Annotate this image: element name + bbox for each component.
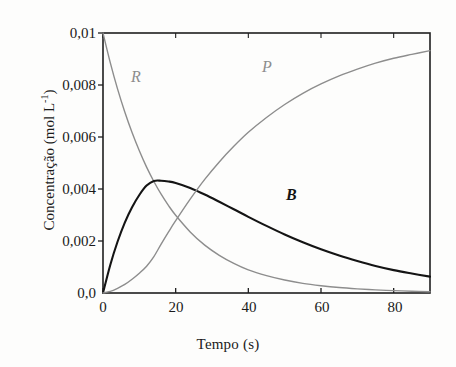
axes-frame	[103, 33, 430, 293]
chart-figure: Concentração (mol L-1) 0,01 0,008 0,006 …	[0, 0, 456, 367]
curve-r	[103, 33, 430, 292]
plot-area	[0, 0, 456, 367]
curve-p	[103, 51, 430, 293]
data-curves	[103, 33, 430, 293]
